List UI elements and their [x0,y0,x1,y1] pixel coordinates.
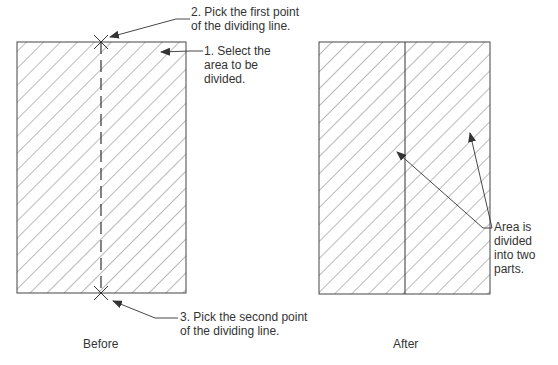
step3-label: 3. Pick the second pointof the dividing … [180,310,307,338]
after-area [319,42,492,294]
before-caption: Before [83,337,118,351]
before-area [17,19,203,318]
after-note: Area isdividedinto twoparts. [494,220,535,276]
step1-label: 1. Select thearea to bedivided. [204,44,271,86]
after-caption: After [393,337,418,351]
step2-label: 2. Pick the first pointof the dividing l… [191,5,299,33]
